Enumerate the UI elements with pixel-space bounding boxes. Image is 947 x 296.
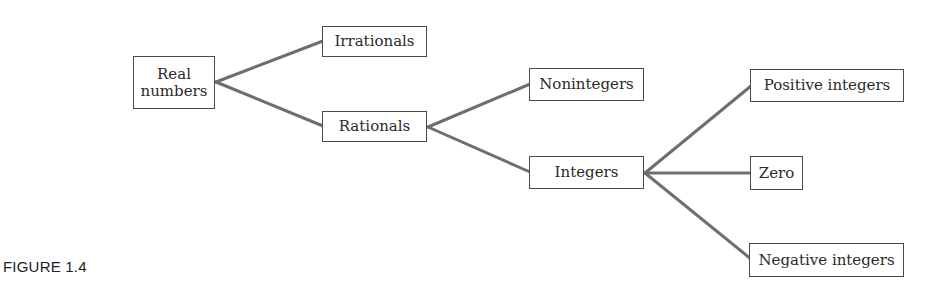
node-real-numbers-line1: Real [157,66,191,83]
edge-rationals-nonintegers [428,84,530,127]
number-classification-diagram: Real numbers Irrationals Rationals Nonin… [0,0,947,296]
node-integers: Integers [529,156,644,189]
node-irrationals: Irrationals [322,26,427,57]
node-irrationals-label: Irrationals [334,33,414,50]
figure-caption: FIGURE 1.4 [3,258,87,275]
edge-real-rationals [216,82,323,126]
node-positive-integers-label: Positive integers [764,77,891,94]
node-integers-label: Integers [555,164,619,181]
node-rationals: Rationals [322,111,427,142]
node-nonintegers-label: Nonintegers [539,76,634,93]
node-positive-integers: Positive integers [750,69,904,102]
node-zero-label: Zero [759,165,795,182]
edge-integers-positive [645,86,751,173]
edge-rationals-integers [428,127,530,172]
edge-real-irrationals [216,41,323,82]
node-real-numbers: Real numbers [133,56,215,109]
node-real-numbers-line2: numbers [141,83,208,100]
node-zero: Zero [750,156,803,190]
node-rationals-label: Rationals [339,118,411,135]
node-negative-integers-label: Negative integers [758,252,894,269]
node-nonintegers: Nonintegers [529,68,644,101]
node-negative-integers: Negative integers [749,243,904,277]
edge-integers-negative [645,173,751,259]
